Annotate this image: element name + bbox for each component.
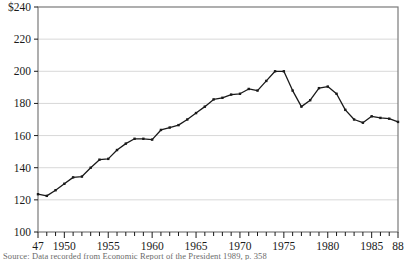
data-point: [107, 158, 109, 160]
data-point: [397, 121, 399, 123]
data-point: [248, 88, 250, 90]
data-point: [274, 70, 276, 72]
x-tick-label: 1975: [272, 240, 295, 252]
y-tick-label: 200: [14, 65, 32, 77]
y-tick-label: 120: [14, 194, 32, 206]
data-point: [204, 105, 206, 107]
data-point: [177, 124, 179, 126]
data-markers: [37, 70, 399, 197]
x-minor-ticks: [38, 232, 398, 238]
data-point: [98, 158, 100, 160]
plot-frame: [38, 7, 398, 232]
y-tick-label: $240: [8, 1, 31, 13]
data-point: [46, 195, 48, 197]
data-point: [221, 97, 223, 99]
data-point: [239, 93, 241, 95]
y-axis: 100120140160180200220$240: [8, 1, 38, 238]
data-point: [379, 117, 381, 119]
data-point: [300, 105, 302, 107]
data-point: [335, 93, 337, 95]
data-point: [195, 112, 197, 114]
chart-container: 100120140160180200220$240471950195519601…: [0, 0, 414, 260]
data-point: [230, 93, 232, 95]
data-point: [327, 85, 329, 87]
data-point: [125, 142, 127, 144]
data-point: [309, 99, 311, 101]
data-point: [265, 80, 267, 82]
y-tick-label: 100: [14, 226, 32, 238]
gridlines: [38, 39, 398, 200]
data-point: [142, 138, 144, 140]
data-point: [370, 115, 372, 117]
data-point: [256, 89, 258, 91]
y-tick-label: 160: [14, 130, 32, 142]
data-point: [37, 193, 39, 195]
chart-source-caption: Source: Data recorded from Economic Repo…: [3, 251, 267, 260]
data-point: [81, 175, 83, 177]
data-point: [151, 138, 153, 140]
x-tick-label: 1980: [316, 240, 339, 252]
x-tick-label: 1985: [360, 240, 383, 252]
data-point: [54, 189, 56, 191]
x-tick-label: 88: [392, 240, 404, 252]
y-tick-label: 180: [14, 97, 32, 109]
data-point: [212, 98, 214, 100]
chart-canvas: 100120140160180200220$240471950195519601…: [0, 0, 414, 260]
data-point: [116, 149, 118, 151]
data-line: [38, 71, 398, 196]
y-tick-label: 140: [14, 162, 32, 174]
data-point: [344, 109, 346, 111]
data-point: [72, 176, 74, 178]
data-point: [169, 126, 171, 128]
y-tick-label: 220: [14, 33, 32, 45]
data-point: [318, 87, 320, 89]
data-point: [283, 70, 285, 72]
data-point: [186, 118, 188, 120]
data-point: [291, 89, 293, 91]
data-point: [89, 167, 91, 169]
data-point: [388, 117, 390, 119]
data-point: [133, 138, 135, 140]
data-point: [353, 118, 355, 120]
data-point: [362, 122, 364, 124]
line-chart: 100120140160180200220$240471950195519601…: [0, 0, 414, 260]
data-point: [63, 183, 65, 185]
data-point: [160, 129, 162, 131]
